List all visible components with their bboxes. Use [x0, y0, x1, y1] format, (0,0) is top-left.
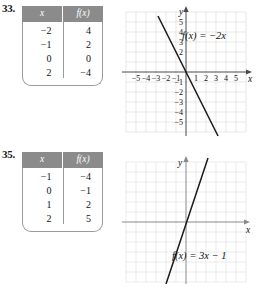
cell-fx: 4 [63, 24, 103, 38]
cell-fx: 2 [63, 198, 103, 212]
cell-fx: 2 [63, 38, 103, 52]
svg-text:−5: −5 [174, 118, 183, 127]
svg-text:−1: −1 [174, 78, 183, 87]
cell-x: 2 [23, 212, 63, 226]
table-row: −2 4 [23, 24, 102, 38]
table-header-x: x [22, 6, 62, 22]
function-table-35: x f(x) −1 −4 0 −1 1 2 2 5 [22, 152, 103, 232]
function-line [166, 158, 208, 284]
svg-text:2: 2 [179, 48, 183, 57]
axes [122, 156, 250, 284]
cell-fx: −1 [63, 184, 103, 198]
table-row: −1 −4 [23, 170, 102, 184]
cell-fx: −4 [63, 170, 103, 184]
table-row: 2 −4 [23, 66, 102, 80]
svg-text:−3: −3 [152, 74, 161, 83]
axes [122, 6, 252, 136]
cell-fx: 0 [63, 52, 103, 66]
problem-35: 35. x f(x) −1 −4 0 −1 1 2 2 5 [0, 144, 258, 289]
table-row: 0 −1 [23, 184, 102, 198]
graph-33: y x −5 −4 −3 −2 −1 1 2 3 4 5 5 4 3 2 −1 [118, 4, 256, 140]
cell-x: 0 [23, 52, 63, 66]
graph-35: y x f(x) = 3x − 1 [116, 152, 256, 284]
svg-text:−2: −2 [174, 88, 183, 97]
coordinate-plane-svg: y x [116, 152, 256, 284]
svg-text:5: 5 [234, 74, 238, 83]
coordinate-plane-svg: y x −5 −4 −3 −2 −1 1 2 3 4 5 5 4 3 2 −1 [118, 4, 256, 140]
y-axis-label: y [178, 7, 184, 17]
table-row: 0 0 [23, 52, 102, 66]
problem-33: 33. x f(x) −2 4 −1 2 0 0 2 −4 [0, 0, 258, 144]
svg-text:−4: −4 [174, 108, 183, 117]
table-header-x: x [22, 152, 62, 168]
cell-x: −2 [23, 24, 63, 38]
svg-text:3: 3 [214, 74, 218, 83]
cell-x: −1 [23, 170, 63, 184]
cell-x: 2 [23, 66, 63, 80]
table-header-fx: f(x) [62, 152, 103, 168]
cell-fx: 5 [63, 212, 103, 226]
svg-text:−2: −2 [162, 74, 171, 83]
svg-text:−3: −3 [174, 98, 183, 107]
table-row: 1 2 [23, 198, 102, 212]
table-row: −1 2 [23, 38, 102, 52]
svg-text:−5: −5 [132, 74, 141, 83]
svg-text:−4: −4 [142, 74, 151, 83]
function-table-33: x f(x) −2 4 −1 2 0 0 2 −4 [22, 6, 103, 86]
svg-text:1: 1 [194, 74, 198, 83]
x-tick-labels: −5 −4 −3 −2 −1 1 2 3 4 5 [132, 74, 238, 83]
problem-number: 33. [2, 2, 15, 14]
function-label: f(x) = −2x [182, 31, 226, 42]
table-row: 2 5 [23, 212, 102, 226]
problem-number: 35. [2, 148, 15, 160]
svg-text:2: 2 [204, 74, 208, 83]
cell-fx: −4 [63, 66, 103, 80]
table-body: −2 4 −1 2 0 0 2 −4 [22, 22, 103, 86]
cell-x: 1 [23, 198, 63, 212]
table-header-fx: f(x) [62, 6, 103, 22]
cell-x: −1 [23, 38, 63, 52]
table-body: −1 −4 0 −1 1 2 2 5 [22, 168, 103, 232]
x-axis-label: x [245, 225, 251, 235]
function-label: f(x) = 3x − 1 [172, 251, 226, 262]
table-header-row: x f(x) [22, 152, 103, 168]
table-header-row: x f(x) [22, 6, 103, 22]
y-axis-label: y [177, 158, 183, 168]
cell-x: 0 [23, 184, 63, 198]
svg-text:5: 5 [179, 18, 183, 27]
x-axis-label: x [247, 74, 253, 84]
svg-text:4: 4 [224, 74, 228, 83]
